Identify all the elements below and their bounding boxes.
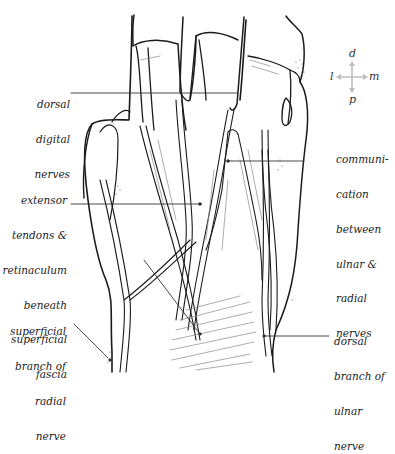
compass-distal: d [349,47,356,60]
compass-medial: m [369,70,379,83]
compass-proximal: p [349,93,356,106]
label-dorsal-branch-ulnar-nerve: dorsal branch of ulnar nerve [334,313,385,454]
leader-superficial-branch-radial [74,324,108,358]
compass-lateral: l [330,70,334,83]
label-superficial-branch-radial-nerve: superficial branch of radial nerve [10,303,66,454]
orientation-compass-arrows [336,61,368,93]
